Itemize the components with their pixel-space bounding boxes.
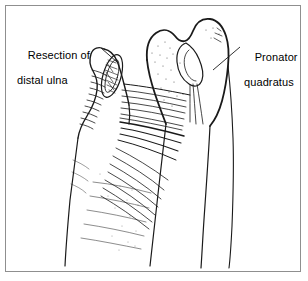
label-pronator-line2: quadratus (242, 76, 298, 89)
radius-head-outline (147, 19, 229, 126)
radius-shaft-left-edge (150, 124, 166, 266)
radius-group (147, 19, 234, 268)
label-pronator-line1: Pronator (255, 51, 298, 63)
pronator-distal-stipple (99, 173, 138, 250)
radius-tendon-strands (190, 84, 203, 124)
pronator-transverse-band (120, 128, 181, 151)
forearm-outer-contour (228, 66, 233, 268)
pronator-fibers-lower (101, 148, 168, 229)
label-resection-line2: distal ulna (15, 74, 90, 87)
ulna-shaft-left-edge (65, 138, 78, 266)
interosseous-shading (71, 160, 89, 193)
pronator-upper-border (124, 84, 190, 95)
radius-notch-loop (177, 43, 203, 86)
pronator-lower-border (118, 140, 176, 160)
label-resection-of-distal-ulna: Resection of distal ulna (15, 36, 90, 111)
pronator-distal-bands (81, 182, 151, 249)
radius-head-stipple (151, 27, 219, 106)
radius-shaft-right-edge (201, 126, 210, 268)
label-pronator-quadratus: Pronator quadratus (242, 38, 298, 113)
leader-line-pronator (213, 47, 240, 70)
label-resection-line1: Resection of (28, 49, 90, 61)
ulna-shaft-right-edge (129, 105, 130, 124)
anatomical-figure: Resection of distal ulna Pronator quadra… (0, 0, 308, 281)
radius-notch-inner (184, 50, 196, 81)
radius-crest-marks (214, 28, 222, 42)
ulna-cut-surface-inner (102, 58, 122, 94)
